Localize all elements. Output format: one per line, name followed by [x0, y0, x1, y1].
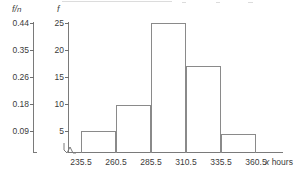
left-tick-label-2: 0.26 — [1, 72, 29, 82]
frequency-tick-label-0: 25 — [42, 18, 64, 28]
x-axis-unit: hours — [272, 157, 293, 167]
left-tick-label-3: 0.18 — [1, 99, 29, 109]
left-axis-title: f/n — [12, 4, 21, 14]
frequency-tick-label-2: 15 — [42, 72, 64, 82]
x-tick-label-2: 285.5 — [133, 157, 169, 167]
frequency-axis-line — [68, 22, 69, 153]
left-tick-mark-0 — [30, 23, 34, 24]
x-axis-variable: x — [265, 157, 269, 167]
histogram-bar-0 — [81, 131, 116, 153]
frequency-tick-mark-1 — [65, 50, 69, 51]
left-tick-mark-2 — [30, 77, 34, 78]
scan-artifact-tick-c — [248, 2, 253, 3]
x-tick-label-0: 235.5 — [63, 157, 99, 167]
frequency-tick-mark-3 — [65, 104, 69, 105]
left-axis-line — [33, 22, 34, 153]
left-tick-mark-4 — [30, 131, 34, 132]
left-tick-mark-3 — [30, 104, 34, 105]
histogram-bar-3 — [186, 66, 221, 153]
left-tick-label-1: 0.35 — [1, 45, 29, 55]
right-axis-title: f — [57, 4, 60, 14]
left-axis-title-denominator: n — [17, 5, 21, 14]
left-tick-label-0: 0.44 — [1, 18, 29, 28]
scan-artifact-line — [62, 1, 172, 2]
left-tick-mark-1 — [30, 50, 34, 51]
frequency-tick-label-3: 10 — [42, 99, 64, 109]
x-axis-label: x hours — [265, 157, 293, 167]
frequency-tick-label-4: 5 — [42, 126, 64, 136]
left-axis-foot — [33, 152, 37, 153]
frequency-tick-mark-0 — [65, 23, 69, 24]
histogram-bar-4 — [221, 134, 256, 153]
frequency-tick-mark-2 — [65, 77, 69, 78]
histogram-chart: f/n f 0.44 0.35 0.26 0.18 0.09 25 20 15 … — [0, 0, 301, 173]
frequency-tick-label-1: 20 — [42, 45, 64, 55]
x-tick-label-1: 260.5 — [98, 157, 134, 167]
histogram-bar-1 — [116, 105, 151, 153]
x-tick-label-4: 335.5 — [203, 157, 239, 167]
x-tick-label-3: 310.5 — [168, 157, 204, 167]
scan-artifact-tick-a — [182, 2, 186, 3]
axis-break-icon — [62, 142, 80, 154]
scan-artifact-tick-b — [216, 2, 220, 3]
frequency-tick-mark-4 — [65, 131, 69, 132]
left-tick-label-4: 0.09 — [1, 126, 29, 136]
histogram-bar-2 — [151, 23, 186, 153]
